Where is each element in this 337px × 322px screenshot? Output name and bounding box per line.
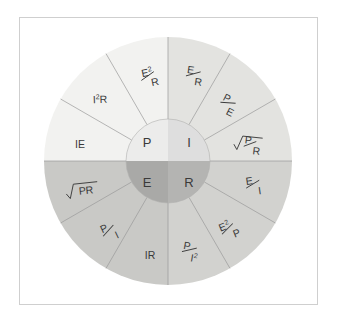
- hub-label-current: I: [187, 135, 191, 150]
- hub-label-resistance: R: [184, 175, 193, 190]
- segment-label-ie: IE: [75, 138, 85, 150]
- svg-text:IR: IR: [145, 249, 156, 261]
- segment-label-i2r: I2R: [93, 93, 108, 106]
- wheel-container: P I E R E2 R I2R IE: [0, 0, 337, 322]
- ohms-law-wheel-page: P I E R E2 R I2R IE: [0, 0, 337, 322]
- ohms-law-wheel-svg: P I E R E2 R I2R IE: [0, 0, 337, 322]
- hub-label-power: P: [143, 135, 152, 150]
- segment-label-ir: IR: [145, 249, 156, 261]
- svg-text:IE: IE: [75, 138, 85, 150]
- hub-label-voltage: E: [143, 175, 152, 190]
- svg-text:PR: PR: [78, 183, 94, 197]
- svg-text:I2R: I2R: [93, 93, 108, 106]
